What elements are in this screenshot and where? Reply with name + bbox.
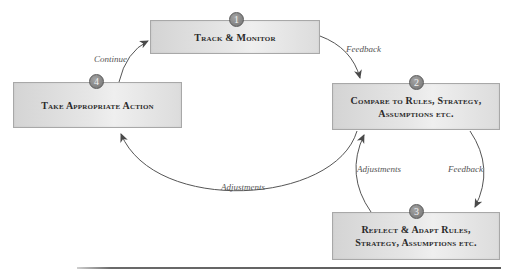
node-compare: Compare to Rules, Strategy, Assumptions … — [332, 83, 500, 130]
edge-label-continue: Continue — [94, 54, 127, 64]
edge-label-adjustments-large: Adjustments — [221, 182, 265, 192]
step-number-badge: 4 — [89, 74, 104, 89]
node-label: Compare to Rules, Strategy, Assumptions … — [333, 94, 499, 120]
node-label: Take Appropriate Action — [33, 99, 162, 112]
node-label: Track & Monitor — [186, 31, 283, 44]
bottom-divider-line — [77, 267, 501, 269]
node-label: Reflect & Adapt Rules, Strategy, Assumpt… — [333, 223, 499, 249]
step-number-badge: 3 — [409, 204, 424, 219]
arrow-track-to-compare — [320, 36, 360, 78]
edge-label-feedback-top: Feedback — [346, 44, 381, 54]
node-reflect-adapt: Reflect & Adapt Rules, Strategy, Assumpt… — [332, 212, 500, 260]
step-number-badge: 1 — [229, 12, 244, 27]
edge-label-feedback-right: Feedback — [448, 164, 483, 174]
edge-label-adjustments-small: Adjustments — [357, 164, 401, 174]
step-number-badge: 2 — [409, 75, 424, 90]
